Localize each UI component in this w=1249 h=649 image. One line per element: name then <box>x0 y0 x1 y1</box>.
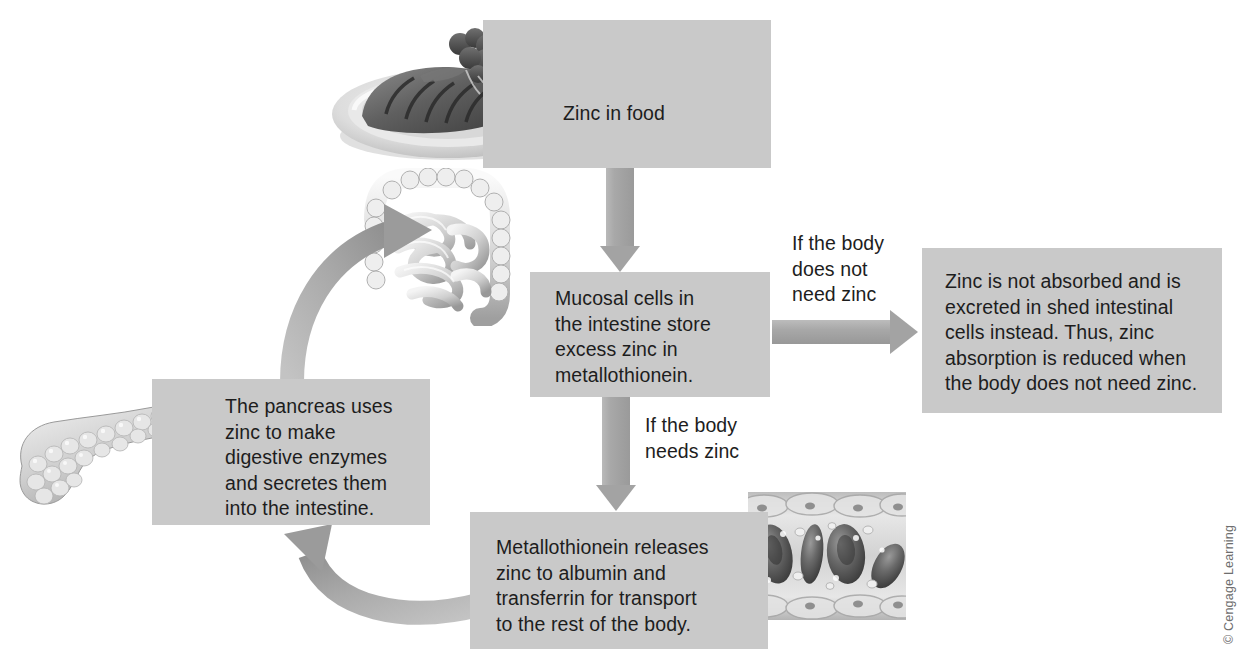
box-pancreas-uses-zinc: The pancreas uses zinc to make digestive… <box>152 379 430 525</box>
arrow-food-to-mucosal-head <box>600 246 640 272</box>
box-zinc-not-absorbed: Zinc is not absorbed and is excreted in … <box>922 248 1222 413</box>
arrow-mucosal-to-release-shaft <box>602 397 630 487</box>
box-mucosal-cells-text: Mucosal cells in the intestine store exc… <box>555 286 711 388</box>
label-if-body-needs-zinc: If the body needs zinc <box>645 413 739 464</box>
box-zinc-in-food: Zinc in food <box>483 20 771 168</box>
label-if-body-does-not-need-zinc: If the body does not need zinc <box>792 231 884 308</box>
arrow-mucosal-to-release-head <box>596 485 636 511</box>
box-mucosal-cells: Mucosal cells in the intestine store exc… <box>530 272 770 397</box>
copyright-credit: © Cengage Learning <box>1222 525 1236 644</box>
blood-vessel-illustration <box>748 492 906 620</box>
arrow-mucosal-to-not-absorbed-shaft <box>772 320 892 344</box>
box-zinc-not-absorbed-text: Zinc is not absorbed and is excreted in … <box>945 269 1197 397</box>
box-metallothionein-releases: Metallothionein releases zinc to albumin… <box>470 512 768 649</box>
box-pancreas-uses-zinc-text: The pancreas uses zinc to make digestive… <box>225 394 393 522</box>
arrow-food-to-mucosal-shaft <box>606 168 634 248</box>
arrow-mucosal-to-not-absorbed-head <box>890 310 918 354</box>
zinc-absorption-diagram: Zinc in food Mucosal cells in the intest… <box>0 0 1249 649</box>
intestine-illustration <box>352 168 518 326</box>
box-metallothionein-releases-text: Metallothionein releases zinc to albumin… <box>496 535 709 637</box>
box-zinc-in-food-text: Zinc in food <box>563 101 665 127</box>
